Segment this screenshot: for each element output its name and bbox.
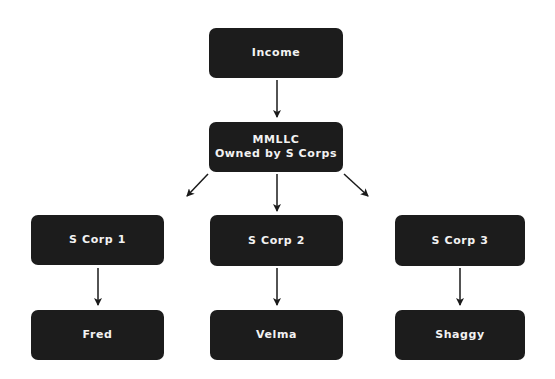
node-mmllc-subtitle: Owned by S Corps xyxy=(215,147,337,161)
node-velma-label: Velma xyxy=(256,328,297,342)
node-scorp3-label: S Corp 3 xyxy=(432,234,489,248)
node-scorp1: S Corp 1 xyxy=(31,215,164,265)
node-income: Income xyxy=(209,28,343,78)
node-scorp2: S Corp 2 xyxy=(210,215,343,266)
node-scorp2-label: S Corp 2 xyxy=(248,234,305,248)
node-scorp1-label: S Corp 1 xyxy=(69,233,126,247)
arrow-mmllc-to-scorp1 xyxy=(187,174,208,196)
node-shaggy: Shaggy xyxy=(395,310,525,360)
node-fred-label: Fred xyxy=(83,328,113,342)
arrow-mmllc-to-scorp3 xyxy=(344,174,368,196)
node-scorp3: S Corp 3 xyxy=(395,215,525,266)
node-velma: Velma xyxy=(210,310,343,360)
node-mmllc: MMLLC Owned by S Corps xyxy=(209,122,343,172)
node-mmllc-title: MMLLC xyxy=(253,133,300,147)
node-income-label: Income xyxy=(252,46,301,60)
node-shaggy-label: Shaggy xyxy=(435,328,485,342)
node-fred: Fred xyxy=(31,310,164,360)
